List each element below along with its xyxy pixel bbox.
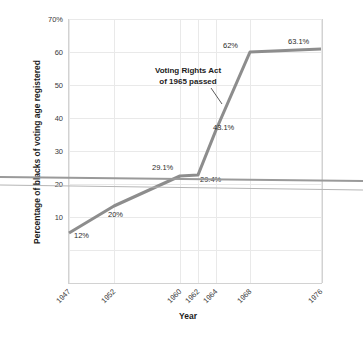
x-axis-ticks: 1947 1952 1960 1962 1964 1968 1976 xyxy=(54,287,324,305)
y-axis-title: Percentage of blacks of voting age regis… xyxy=(32,60,42,244)
y-axis-ticks: 70% 60 50 40 30 20 10 xyxy=(48,15,63,222)
x-tick-label: 1964 xyxy=(201,287,219,305)
y-tick-label: 30 xyxy=(55,147,63,156)
chart-container: 70% 60 50 40 30 20 10 1947 1952 1960 196… xyxy=(0,0,363,337)
y-tick-label: 60 xyxy=(55,48,63,57)
y-tick-label: 10 xyxy=(55,213,63,222)
x-tick-label: 1947 xyxy=(54,287,72,305)
x-tick-label: 1960 xyxy=(165,287,183,305)
x-tick-label: 1968 xyxy=(235,287,253,305)
annotation-line-1: Voting Rights Act xyxy=(155,66,222,75)
y-tick-label: 20 xyxy=(55,180,63,189)
line-chart: 70% 60 50 40 30 20 10 1947 1952 1960 196… xyxy=(0,0,363,337)
annotation-line-2: of 1965 passed xyxy=(159,77,216,86)
data-label-1968: 62% xyxy=(223,41,238,50)
y-tick-label: 40 xyxy=(55,114,63,123)
y-tick-label: 50 xyxy=(55,81,63,90)
page-bottom-artifact xyxy=(0,322,363,336)
x-tick-label: 1952 xyxy=(99,287,117,305)
y-tick-label: 70% xyxy=(48,15,63,24)
x-tick-label: 1976 xyxy=(306,287,324,305)
x-axis-title: Year xyxy=(179,311,198,321)
data-label-1964: 43.1% xyxy=(213,123,235,132)
data-label-1947: 12% xyxy=(74,231,89,240)
data-label-1960: 29.1% xyxy=(152,163,174,172)
data-label-1952: 20% xyxy=(108,210,123,219)
data-label-1976: 63.1% xyxy=(288,37,310,46)
x-tick-label: 1962 xyxy=(183,287,201,305)
